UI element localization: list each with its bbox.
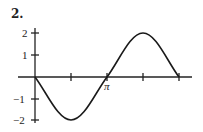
x-tick-label-pi: π: [104, 80, 110, 92]
problem-number: 2.: [11, 7, 24, 21]
y-tick-label-neg1: −1: [13, 93, 25, 105]
y-tick-label-neg2: −2: [13, 114, 25, 126]
y-tick-label-1: 1: [22, 49, 28, 61]
axes: [18, 28, 192, 123]
sine-graph-figure: 2. 2 1 −1 −2 π: [0, 0, 203, 132]
y-tick-label-2: 2: [22, 27, 28, 39]
